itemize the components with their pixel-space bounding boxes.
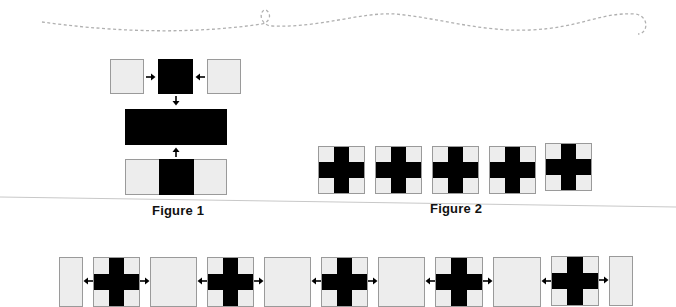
light-half-tile [609, 256, 633, 306]
cross-tile [551, 256, 599, 306]
top-left-light-square [110, 59, 144, 94]
top-black-square [158, 59, 193, 94]
top-right-light-square [207, 59, 241, 94]
light-tile [264, 257, 311, 307]
arrow-left-icon [195, 72, 205, 82]
arrow-right-icon [146, 72, 156, 82]
arrow-right-icon [368, 276, 378, 286]
light-half-tile [59, 257, 83, 307]
figure-1-caption: Figure 1 [152, 203, 204, 218]
cross-tile [93, 257, 140, 307]
arrow-right-icon [483, 276, 493, 286]
cross-tile [207, 257, 254, 307]
middle-black-rectangle [125, 109, 227, 145]
arrow-left-icon [311, 276, 321, 286]
arrow-left-icon [197, 276, 207, 286]
arrow-left-icon [425, 276, 435, 286]
cross-tile [321, 257, 368, 307]
arrow-right-icon [599, 275, 609, 285]
light-tile [150, 257, 197, 307]
light-tile [378, 257, 425, 307]
arrow-left-icon [83, 276, 93, 286]
arrow-down-icon [171, 96, 181, 106]
arrow-left-icon [541, 276, 551, 286]
cross-tile [545, 143, 592, 191]
cross-tile [375, 146, 422, 194]
arrow-right-icon [254, 276, 264, 286]
cross-tile [432, 146, 479, 194]
figure-2-caption: Figure 2 [430, 201, 482, 216]
cross-tile [435, 257, 483, 307]
arrow-right-icon [140, 276, 150, 286]
arrow-up-icon [171, 147, 181, 157]
cross-tile [318, 146, 365, 194]
bottom-split-rectangle [125, 159, 227, 195]
bottom-black-center [159, 159, 194, 195]
light-tile [493, 257, 541, 307]
cross-tile [489, 146, 536, 194]
